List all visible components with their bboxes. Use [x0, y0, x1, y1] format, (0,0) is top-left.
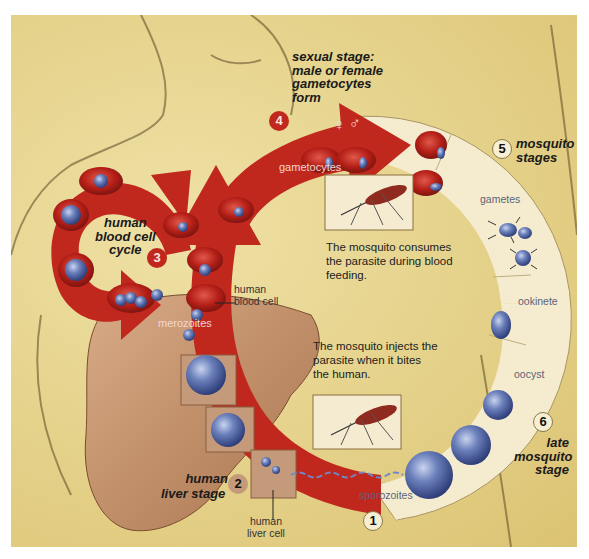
mosquito-feeding-inset	[325, 175, 413, 230]
stage-6-label: late mosquito stage	[514, 436, 569, 477]
mosquito-biting-inset	[313, 395, 401, 449]
mosquito-injects-caption: The mosquito injects the parasite when i…	[313, 340, 438, 381]
oocyst-label: oocyst	[514, 368, 544, 380]
stage-5-label: mosquito stages	[516, 137, 575, 164]
stage-2-label-line2: liver stage	[161, 487, 225, 501]
mosquito-consumes-caption: The mosquito consumes the parasite durin…	[326, 241, 453, 282]
human-blood-cell-label: human blood cell	[234, 283, 278, 307]
sporozoites-label: sporozoites	[359, 489, 413, 501]
stage-6-marker: 6	[533, 412, 553, 432]
stage-3-label: human blood cell cycle	[95, 216, 156, 257]
merozoites-label: merozoites	[158, 317, 212, 329]
ookinete-label: ookinete	[518, 295, 558, 307]
human-liver-cell-label: human liver cell	[247, 515, 285, 539]
stage-2-marker: 2	[228, 474, 248, 494]
stage-4-marker: 4	[269, 111, 289, 131]
female-symbol-icon: ♀	[333, 116, 345, 134]
malaria-life-cycle-diagram: 4 3 2 1 5 6 sexual stage: male or female…	[11, 15, 577, 547]
gametocytes-label: gametocytes	[279, 161, 341, 173]
gametes-label: gametes	[480, 193, 520, 205]
male-symbol-icon: ♂	[349, 114, 361, 132]
stage-4-label: sexual stage: male or female gametocytes…	[292, 50, 383, 105]
stage-1-marker: 1	[363, 511, 383, 531]
stage-2-label: human	[166, 472, 228, 486]
stage-5-marker: 5	[492, 139, 512, 159]
